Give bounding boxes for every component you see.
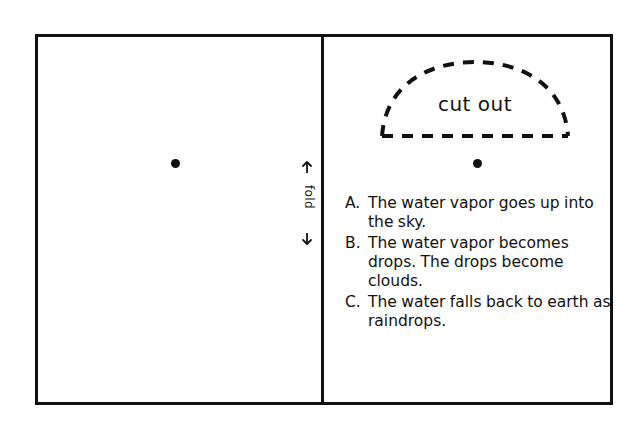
- fold-indicator-group: fold: [296, 160, 322, 246]
- left-blank-panel: [38, 37, 321, 402]
- registration-dot-icon-right: [473, 159, 482, 168]
- cut-out-label: cut out: [372, 92, 578, 116]
- list-item-letter: C.: [345, 293, 366, 312]
- arrow-down-icon: [300, 232, 314, 246]
- fold-label: fold: [302, 162, 316, 232]
- list-item: B. The water vapor becomes drops. The dr…: [345, 234, 613, 291]
- list-item-text: The water falls back to earth as raindro…: [368, 293, 613, 331]
- list-item-text: The water vapor goes up into the sky.: [368, 194, 613, 232]
- list-item-letter: A.: [345, 194, 366, 213]
- list-item-letter: B.: [345, 234, 366, 253]
- scanned-worksheet-page: cut out fold A. The water vapor goes up …: [0, 0, 644, 424]
- registration-dot-icon-left: [171, 159, 180, 168]
- list-item: C. The water falls back to earth as rain…: [345, 293, 613, 331]
- instruction-list: A. The water vapor goes up into the sky.…: [345, 194, 613, 333]
- list-item-text: The water vapor becomes drops. The drops…: [368, 234, 613, 291]
- list-item: A. The water vapor goes up into the sky.: [345, 194, 613, 232]
